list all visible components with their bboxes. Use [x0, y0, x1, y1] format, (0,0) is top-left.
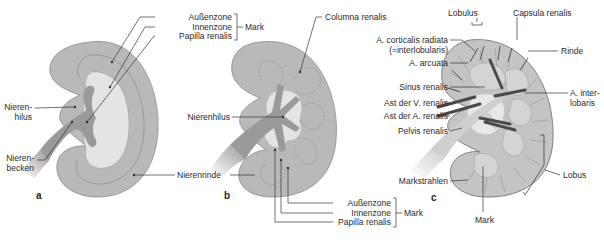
label-papilla-a: Papilla renalis [150, 31, 232, 41]
label-mark-b: Mark [404, 208, 423, 218]
kidney-a [22, 41, 158, 197]
label-ast-v-renalis: Ast der V. renalis [340, 98, 448, 108]
label-papilla-b: Papilla renalis [310, 217, 391, 227]
label-nierenhilus-b: Nierenhilus [160, 112, 230, 122]
panel-letter-c: c [431, 192, 437, 203]
label-hilus-a-2: hilus [0, 112, 32, 122]
label-sinus-renalis: Sinus renalis [360, 82, 448, 92]
label-becken-a-2: becken [0, 163, 34, 173]
label-columna-renalis: Columna renalis [325, 12, 386, 22]
label-corticalis-2: (=interlobularis) [340, 45, 448, 55]
label-capsula-renalis: Capsula renalis [513, 8, 572, 18]
label-aussenzone-a: Außenzone [150, 12, 232, 22]
label-becken-a-1: Nieren- [0, 153, 34, 163]
label-pelvis-renalis: Pelvis renalis [360, 126, 448, 136]
label-lobus: Lobus [563, 170, 586, 180]
label-corticalis-1: A. corticalis radiata [340, 35, 448, 45]
panel-letter-a: a [36, 190, 42, 201]
label-mark-c: Mark [475, 215, 494, 225]
label-aussenzone-b: Außenzone [310, 198, 391, 208]
label-mark-a: Mark [245, 22, 264, 32]
panel-letter-b: b [224, 190, 230, 201]
kidney-diagram [0, 0, 604, 243]
label-interlobaris-1: A. inter- [570, 88, 600, 98]
label-ast-a-renalis: Ast der A. renalis [340, 111, 448, 121]
label-interlobaris-2: lobaris [570, 98, 595, 108]
label-lobulus: Lobulus [448, 8, 478, 18]
label-markstrahlen: Markstrahlen [360, 176, 448, 186]
label-nierenrinde: Nierenrinde [177, 170, 221, 180]
label-rinde-c: Rinde [561, 46, 583, 56]
label-arcuata: A. arcuata [360, 58, 448, 68]
label-hilus-a-1: Nieren- [0, 102, 32, 112]
